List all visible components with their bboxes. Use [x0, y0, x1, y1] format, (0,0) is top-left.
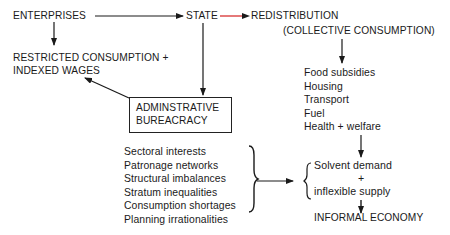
list-item: Patronage networks — [124, 159, 236, 173]
list-item: Consumption shortages — [124, 199, 236, 213]
arrow-bureaucracy-to-wages — [85, 78, 129, 98]
left-brace — [304, 163, 311, 199]
node-state: STATE — [186, 10, 218, 22]
list-item: Health + welfare — [304, 120, 381, 134]
node-inflexible-supply: inflexible supply — [314, 185, 391, 197]
list-item: Food subsidies — [304, 66, 381, 80]
list-item: Housing — [304, 80, 381, 94]
node-enterprises: ENTERPRISES — [13, 10, 86, 22]
list-item: Stratum inequalities — [124, 186, 236, 200]
bureaucracy-line2: BUREACRACY — [130, 115, 231, 128]
right-brace — [249, 146, 258, 212]
bureaucracy-line1: ADMINSTRATIVE — [130, 102, 231, 115]
list-item: Planning irrationalities — [124, 213, 236, 227]
list-item: Sectoral interests — [124, 145, 236, 159]
node-administrative-bureaucracy: ADMINSTRATIVE BUREACRACY — [129, 97, 232, 133]
list-item: Structural imbalances — [124, 172, 236, 186]
list-item: Transport — [304, 93, 381, 107]
bureaucracy-factors-list: Sectoral interests Patronage networks St… — [124, 145, 236, 226]
list-item: Fuel — [304, 107, 381, 121]
node-solvent-demand: Solvent demand — [314, 159, 392, 171]
consumption-items-list: Food subsidies Housing Transport Fuel He… — [304, 66, 381, 134]
node-plus: + — [358, 172, 364, 184]
node-informal-economy: INFORMAL ECONOMY — [314, 212, 423, 224]
node-restricted-consumption: RESTRICTED CONSUMPTION + — [13, 52, 169, 64]
node-redistribution: REDISTRIBUTION — [251, 10, 338, 22]
node-indexed-wages: INDEXED WAGES — [13, 65, 100, 77]
node-collective-consumption: (COLLECTIVE CONSUMPTION) — [283, 25, 435, 37]
